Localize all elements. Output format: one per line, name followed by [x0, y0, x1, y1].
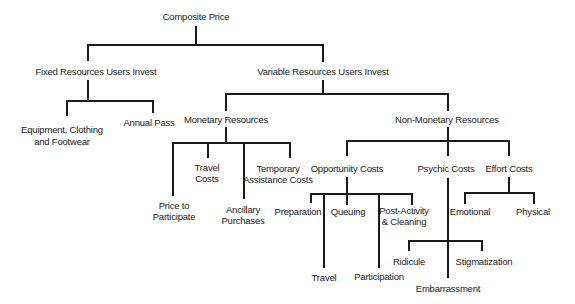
connector [207, 142, 209, 158]
node-composite-price: Composite Price [163, 11, 230, 23]
connector [408, 240, 410, 251]
connector [346, 140, 348, 156]
connector [346, 177, 348, 194]
node-equipment-line1: Equipment, Clothing [21, 124, 103, 136]
node-physical: Physical [516, 206, 550, 218]
connector [225, 127, 227, 143]
connector [195, 26, 197, 46]
connector [87, 44, 324, 46]
node-equipment-line2: and Footwear [34, 136, 90, 148]
node-ancillary-line2: Purchases [221, 215, 264, 227]
connector [66, 100, 68, 116]
node-participation: Participation [354, 271, 404, 283]
connector [322, 44, 324, 62]
connector [447, 178, 449, 278]
connector [346, 193, 348, 205]
node-temporary-line2: Assistance Costs [243, 174, 313, 186]
connector [172, 142, 174, 196]
node-preparation: Preparation [275, 206, 322, 218]
composite-price-diagram: Composite Price Fixed Resources Users In… [0, 0, 575, 304]
node-annual-pass: Annual Pass [123, 117, 174, 129]
connector [310, 193, 312, 203]
connector [310, 193, 413, 195]
connector [464, 192, 535, 194]
connector [323, 193, 325, 268]
node-psychic-costs: Psychic Costs [417, 163, 474, 175]
connector [243, 142, 245, 199]
connector [172, 142, 291, 144]
connector [66, 100, 154, 102]
node-queuing: Queuing [331, 206, 366, 218]
node-opportunity-costs: Opportunity Costs [311, 163, 384, 175]
node-stigmatization: Stigmatization [456, 256, 513, 268]
connector [411, 193, 413, 205]
connector [464, 192, 466, 204]
connector [508, 140, 510, 156]
connector [447, 93, 449, 111]
connector [408, 240, 483, 242]
node-monetary-resources: Monetary Resources [184, 114, 268, 126]
connector [447, 127, 449, 141]
connector [87, 44, 89, 61]
connector [508, 177, 510, 193]
connector [346, 140, 510, 142]
connector [152, 100, 154, 113]
connector [481, 240, 483, 251]
connector [289, 142, 291, 158]
node-travel: Travel [312, 272, 337, 284]
connector [447, 140, 449, 156]
node-post-activity-line2: & Cleaning [382, 216, 426, 228]
connector [225, 93, 227, 111]
connector [87, 80, 89, 101]
connector [322, 80, 324, 94]
node-ridicule: Ridicule [393, 256, 425, 268]
node-effort-costs: Effort Costs [485, 163, 532, 175]
node-emotional: Emotional [450, 206, 490, 218]
node-travel-costs-line2: Costs [195, 173, 218, 185]
node-non-monetary-resources: Non-Monetary Resources [395, 114, 499, 126]
node-variable-resources: Variable Resources Users Invest [257, 66, 388, 78]
node-fixed-resources: Fixed Resources Users Invest [35, 66, 156, 78]
connector [225, 93, 449, 95]
node-embarrassment: Embarrassment [416, 283, 480, 295]
node-price-line2: Participate [153, 211, 196, 223]
connector [533, 192, 535, 204]
